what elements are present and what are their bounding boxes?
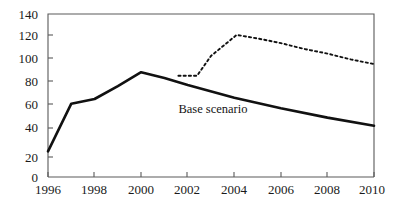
- x-tick-label-2000: 2000: [128, 182, 154, 197]
- x-tick-label-2002: 2002: [174, 182, 200, 197]
- x-tick-label-2004: 2004: [221, 182, 248, 197]
- series-line-alternative-scenario: [178, 35, 374, 76]
- y-tick-labels: 140 120 100 80 60 40 20 0: [19, 7, 39, 185]
- x-tick-label-1998: 1998: [81, 182, 107, 197]
- x-tick-label-2008: 2008: [314, 182, 340, 197]
- y-tick-label-40: 40: [25, 120, 38, 135]
- y-tick-label-100: 100: [19, 51, 39, 66]
- axis-frame: [48, 14, 374, 177]
- x-tick-marks: [48, 172, 374, 177]
- x-tick-label-2010: 2010: [359, 182, 385, 197]
- x-tick-label-1996: 1996: [35, 182, 62, 197]
- chart-figure: 140 120 100 80 60 40 20 0: [0, 0, 395, 211]
- y-tick-label-60: 60: [25, 97, 38, 112]
- y-tick-label-20: 20: [25, 150, 38, 165]
- x-tick-label-2006: 2006: [268, 182, 295, 197]
- y-tick-label-80: 80: [25, 74, 38, 89]
- base-scenario-label: Base scenario: [178, 102, 247, 116]
- x-tick-labels: 1996 1998 2000 2002 2004 2006 2008 2010: [35, 182, 385, 197]
- y-tick-label-120: 120: [19, 28, 39, 43]
- line-chart: 140 120 100 80 60 40 20 0: [0, 0, 395, 211]
- y-tick-marks: [48, 35, 53, 157]
- y-tick-label-140: 140: [19, 7, 39, 22]
